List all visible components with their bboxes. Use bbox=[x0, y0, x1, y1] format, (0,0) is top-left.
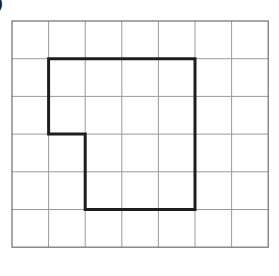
grid-diagram bbox=[0, 0, 279, 276]
